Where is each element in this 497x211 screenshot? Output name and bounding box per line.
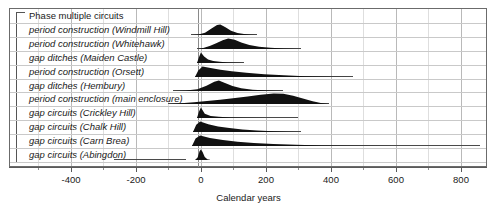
distribution-row: gap circuits (Chalk Hill) (10, 120, 486, 134)
axis-tick-label: 0 (171, 174, 231, 185)
axis-tick-major (136, 168, 137, 172)
axis-tick-major (71, 168, 72, 172)
probability-density-curve (192, 24, 257, 35)
axis-tick-label: 400 (301, 174, 361, 185)
distribution-row-label: period construction (Whitehawk) (29, 37, 165, 51)
distribution-row: period construction (Whitehawk) (10, 37, 486, 51)
axis-tick-major (266, 168, 267, 172)
axis-tick-minor (298, 168, 299, 170)
distribution-row: gap circuits (Abingdon) (10, 148, 486, 162)
row-separator (10, 162, 486, 163)
distribution-row-label: gap circuits (Abingdon) (29, 148, 126, 162)
distribution-row-label: gap circuits (Chalk Hill) (29, 120, 126, 134)
distribution-row-label: period construction (Orsett) (29, 65, 144, 79)
range-line (114, 159, 186, 160)
probability-density-curve (198, 38, 301, 49)
distribution-row-label: gap ditches (Maiden Castle) (29, 51, 147, 65)
distribution-row: period construction (Orsett) (10, 65, 486, 79)
distribution-row-label: gap circuits (Crickley Hill) (29, 106, 136, 120)
axis-tick-minor (103, 168, 104, 170)
axis-tick-major (331, 168, 332, 172)
probability-density-curve (195, 66, 354, 77)
axis-tick-label: 200 (236, 174, 296, 185)
distribution-row: gap ditches (Maiden Castle) (10, 51, 486, 65)
axis-tick-minor (233, 168, 234, 170)
distribution-row: gap circuits (Crickley Hill) (10, 106, 486, 120)
probability-density-curve (168, 93, 329, 104)
axis-tick-minor (363, 168, 364, 170)
distribution-row-label: period construction (Windmill Hill) (29, 23, 170, 37)
probability-density-curve (195, 149, 211, 160)
probability-density-curve (197, 107, 298, 118)
distribution-row: gap circuits (Carn Brea) (10, 134, 486, 148)
axis-tick-minor (38, 168, 39, 170)
axis-tick-label: 800 (431, 174, 491, 185)
axis-tick-major (396, 168, 397, 172)
phase-header-row: Phase multiple circuits (10, 9, 486, 23)
x-axis-title: Calendar years (0, 192, 497, 203)
distribution-row-label: gap ditches (Hembury) (29, 79, 125, 93)
axis-tick-major (461, 168, 462, 172)
axis-tick-major (201, 168, 202, 172)
probability-density-curve (193, 121, 301, 132)
axis-tick-minor (168, 168, 169, 170)
axis-tick-label: 600 (366, 174, 426, 185)
probability-density-curve (173, 80, 284, 91)
distribution-row: period construction (Windmill Hill) (10, 23, 486, 37)
axis-tick-minor (428, 168, 429, 170)
distribution-row-label: gap circuits (Carn Brea) (29, 134, 129, 148)
x-axis-line (9, 167, 487, 168)
probability-density-curve (192, 135, 480, 146)
distribution-row-label: period construction (main enclosure) (29, 92, 183, 106)
distribution-row: period construction (main enclosure) (10, 92, 486, 106)
axis-tick-label: -200 (106, 174, 166, 185)
axis-tick-label: -400 (41, 174, 101, 185)
distribution-row: gap ditches (Hembury) (10, 79, 486, 93)
phase-header-label: Phase multiple circuits (29, 9, 124, 23)
radiocarbon-probability-chart: Phase multiple circuitsperiod constructi… (0, 0, 497, 211)
probability-density-curve (197, 52, 245, 63)
